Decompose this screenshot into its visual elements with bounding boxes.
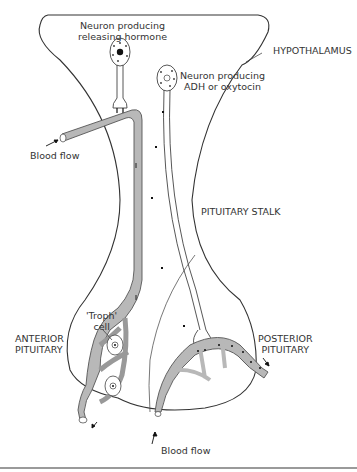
label-posterior-pituitary: POSTERIOR PITUITARY	[258, 333, 313, 355]
label-line: PITUITARY	[258, 344, 313, 355]
label-adh-neuron: Neuron producing ADH or oxytocin	[180, 70, 265, 92]
label-anterior-pituitary: ANTERIOR PITUITARY	[15, 333, 64, 355]
label-line: releasing hormone	[78, 31, 167, 42]
diagram-canvas	[0, 0, 357, 472]
label-line: 'Troph'	[86, 310, 117, 321]
label-releasing-neuron: Neuron producing releasing hormone	[78, 20, 167, 42]
label-line: ANTERIOR	[15, 333, 64, 344]
label-hypothalamus: HYPOTHALAMUS	[273, 45, 352, 56]
label-troph-cell: 'Troph' cell	[86, 310, 117, 332]
label-blood-flow-top: Blood flow	[30, 150, 79, 161]
label-line: cell	[86, 321, 117, 332]
label-line: Neuron producing	[180, 70, 265, 81]
label-blood-flow-bottom: Blood flow	[161, 445, 210, 456]
label-pituitary-stalk: PITUITARY STALK	[201, 206, 281, 217]
posterior-vessel	[155, 338, 268, 413]
adh-neuron-icon	[151, 65, 212, 344]
label-line: Neuron producing	[78, 20, 167, 31]
label-line: ADH or oxytocin	[180, 81, 265, 92]
releasing-neuron-icon	[110, 38, 130, 113]
bottom-rule	[0, 467, 357, 469]
lobe-divider	[149, 255, 195, 412]
hypothalamus-leader	[246, 53, 262, 62]
label-line: PITUITARY	[15, 344, 64, 355]
label-line: POSTERIOR	[258, 333, 313, 344]
